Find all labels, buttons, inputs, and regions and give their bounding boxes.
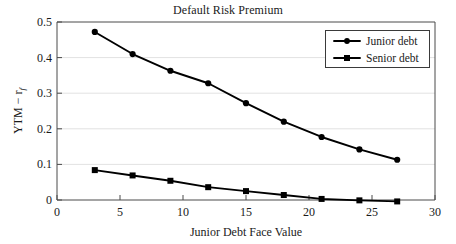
data-point xyxy=(130,172,136,178)
y-tick-label: 0.1 xyxy=(37,157,52,171)
y-axis-label: YTM − rf xyxy=(11,87,27,134)
x-tick-labels: 0 5 10 15 20 25 30 xyxy=(54,205,441,219)
legend-marker-circle-icon xyxy=(344,38,350,44)
x-tick-label: 25 xyxy=(366,205,378,219)
gridlines xyxy=(57,58,435,165)
data-point xyxy=(394,157,400,163)
data-point xyxy=(92,29,98,35)
svg-text:YTM − rf: YTM − rf xyxy=(11,87,27,134)
data-point xyxy=(356,146,362,152)
data-point xyxy=(394,198,400,204)
y-tick-label: 0 xyxy=(46,193,52,207)
data-point xyxy=(167,68,173,74)
data-point xyxy=(130,51,136,57)
data-point xyxy=(281,119,287,125)
y-tick-labels: 0 0.1 0.2 0.3 0.4 0.5 xyxy=(37,15,52,207)
y-tick-label: 0.2 xyxy=(37,122,52,136)
x-tick-label: 5 xyxy=(117,205,123,219)
x-tick-label: 10 xyxy=(177,205,189,219)
data-point xyxy=(205,80,211,86)
y-tick-label: 0.3 xyxy=(37,86,52,100)
data-point xyxy=(319,134,325,140)
data-point xyxy=(243,188,249,194)
data-point xyxy=(243,100,249,106)
x-tick-label: 15 xyxy=(240,205,252,219)
chart-plot-area: 0 0.1 0.2 0.3 0.4 0.5 0 5 10 15 20 25 30… xyxy=(0,0,456,244)
data-point xyxy=(281,192,287,198)
y-axis-label-subscript: f xyxy=(17,87,27,91)
data-point xyxy=(319,196,325,202)
data-point xyxy=(92,167,98,173)
x-tick-label: 30 xyxy=(429,205,441,219)
chart-legend: Junior debt Senior debt xyxy=(326,31,430,68)
x-axis-label: Junior Debt Face Value xyxy=(190,225,302,239)
y-tick-label: 0.4 xyxy=(37,51,52,65)
data-point xyxy=(167,178,173,184)
y-tick-marks xyxy=(57,22,62,200)
y-axis-label-main: YTM − r xyxy=(11,91,25,134)
x-tick-label: 20 xyxy=(303,205,315,219)
legend-item-label-senior: Senior debt xyxy=(366,52,420,64)
x-tick-label: 0 xyxy=(54,205,60,219)
chart-figure: Default Risk Premium xyxy=(0,0,456,244)
data-point xyxy=(205,184,211,190)
y-tick-label: 0.5 xyxy=(37,15,52,29)
legend-marker-square-icon xyxy=(344,55,350,61)
legend-item-label-junior: Junior debt xyxy=(366,35,418,47)
data-point xyxy=(356,197,362,203)
x-tick-marks xyxy=(57,195,435,200)
